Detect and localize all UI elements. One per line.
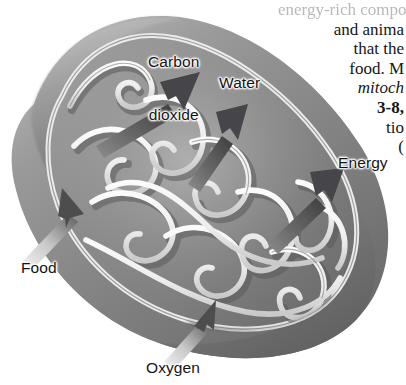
mitochondrion-figure: Carbon dioxide Water Energy Food Oxygen … [0, 0, 406, 385]
label-carbon-dioxide-line2: dioxide [148, 106, 199, 124]
body-text-line-2: that the [278, 39, 406, 59]
body-text-line-0: energy-rich compounds [278, 0, 406, 20]
body-text-line-5: 3-8, [278, 98, 406, 118]
body-text-line-1: and anima [278, 20, 406, 40]
body-text-line-4: mitoch [278, 78, 406, 98]
body-text-column: energy-rich compounds and anima that the… [278, 0, 406, 168]
label-carbon-dioxide: Carbon dioxide [148, 18, 199, 158]
label-carbon-dioxide-line1: Carbon [148, 53, 199, 71]
label-water: Water [219, 74, 260, 92]
body-text-line-6: tio [278, 118, 406, 138]
label-food: Food [21, 259, 57, 277]
body-text-line-7: ( [278, 137, 406, 157]
label-oxygen: Oxygen [146, 359, 200, 377]
body-text-line-3: food. M [278, 59, 406, 79]
